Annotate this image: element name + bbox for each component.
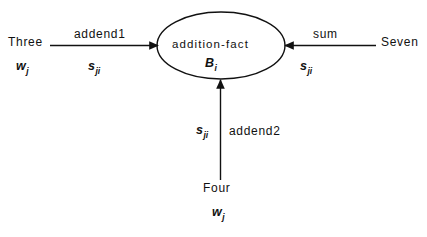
node-symbol-four-subscript: j — [222, 212, 224, 222]
edge-symbol-addend2: sji — [196, 124, 208, 137]
node-symbol-four-base: w — [212, 205, 222, 219]
edge-symbol-sum-subscript: ji — [307, 66, 312, 76]
node-symbol-addition-fact-subscript: i — [215, 63, 217, 73]
diagram-graphics-layer — [0, 0, 427, 237]
edge-symbol-addend2-subscript: ji — [203, 130, 208, 140]
node-label-three: Three — [8, 36, 43, 48]
node-symbol-addition-fact-base: B — [205, 56, 214, 70]
node-label-four: Four — [203, 182, 230, 194]
edge-symbol-addend1-base: s — [88, 59, 95, 73]
node-symbol-three-base: w — [16, 59, 26, 73]
node-symbol-addition-fact: Bi — [205, 57, 216, 70]
diagram-canvas: Three wj addend1 sji addition-fact Bi su… — [0, 0, 427, 237]
node-symbol-three: wj — [16, 60, 28, 73]
edge-symbol-addend2-base: s — [196, 123, 203, 137]
edge-symbol-sum: sji — [300, 60, 312, 73]
edge-symbol-addend1: sji — [88, 60, 100, 73]
edge-label-addend1: addend1 — [74, 28, 126, 40]
edge-label-addend2: addend2 — [229, 125, 281, 137]
edge-symbol-addend1-subscript: ji — [95, 66, 100, 76]
edge-label-sum: sum — [313, 28, 338, 40]
edge-symbol-sum-base: s — [300, 59, 307, 73]
node-symbol-four: wj — [212, 206, 224, 219]
node-label-addition-fact: addition-fact — [172, 39, 249, 51]
node-symbol-three-subscript: j — [26, 66, 28, 76]
node-label-seven: Seven — [381, 36, 419, 48]
